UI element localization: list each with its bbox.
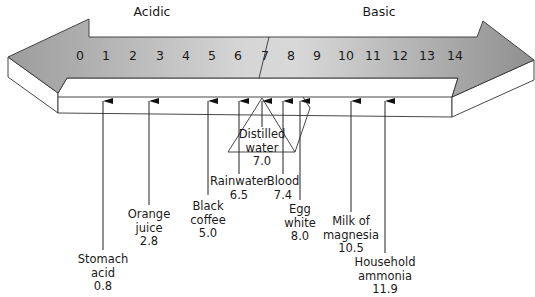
substance-name: ammonia xyxy=(355,270,416,284)
ph-tick-0: 0 xyxy=(76,48,84,63)
double-arrow-3d xyxy=(8,19,534,117)
ph-tick-9: 9 xyxy=(313,48,321,63)
substance-label: Rainwater6.5 xyxy=(210,175,268,202)
ph-value: 6.5 xyxy=(210,189,268,203)
substance-name: Milk of xyxy=(323,215,379,229)
substance-name: magnesia xyxy=(323,229,379,243)
substance-name: Egg xyxy=(284,203,315,217)
ph-tick-5: 5 xyxy=(208,48,216,63)
substance-label: Eggwhite8.0 xyxy=(284,203,315,244)
substance-label: Orangejuice2.8 xyxy=(128,208,171,249)
ph-value: 10.5 xyxy=(323,242,379,256)
substance-label: Blood7.4 xyxy=(267,175,299,202)
ph-value: 0.8 xyxy=(78,280,129,294)
ph-tick-6: 6 xyxy=(234,48,242,63)
ph-tick-2: 2 xyxy=(129,48,137,63)
region-label-basic: Basic xyxy=(362,4,395,19)
ph-tick-12: 12 xyxy=(392,48,408,63)
substance-name: Black xyxy=(190,200,225,214)
substance-name: Blood xyxy=(267,175,299,189)
ph-tick-11: 11 xyxy=(365,48,381,63)
ph-value: 5.0 xyxy=(190,227,225,241)
ph-tick-4: 4 xyxy=(182,48,190,63)
substance-label: Blackcoffee5.0 xyxy=(190,200,225,241)
ph-value: 7.0 xyxy=(239,155,286,169)
region-label-acidic: Acidic xyxy=(134,4,171,19)
substance-label: Householdammonia11.9 xyxy=(355,256,416,297)
ph-value: 11.9 xyxy=(355,283,416,297)
ph-value: 2.8 xyxy=(128,235,171,249)
substance-name: white xyxy=(284,217,315,231)
substance-label: Milk ofmagnesia10.5 xyxy=(323,215,379,256)
ph-tick-7: 7 xyxy=(261,48,269,63)
substance-name: Distilled xyxy=(239,128,286,142)
substance-name: Rainwater xyxy=(210,175,268,189)
substance-name: Household xyxy=(355,256,416,270)
shaft-front-face xyxy=(58,78,458,117)
ph-tick-8: 8 xyxy=(287,48,295,63)
ph-tick-3: 3 xyxy=(156,48,164,63)
ph-tick-10: 10 xyxy=(338,48,354,63)
substance-label: Distilledwater7.0 xyxy=(239,128,286,169)
ph-tick-14: 14 xyxy=(447,48,463,63)
substance-name: water xyxy=(239,142,286,156)
substance-name: Orange xyxy=(128,208,171,222)
substance-name: Stomach xyxy=(78,253,129,267)
substance-name: coffee xyxy=(190,214,225,228)
ph-value: 8.0 xyxy=(284,230,315,244)
ph-value: 7.4 xyxy=(267,189,299,203)
ph-tick-1: 1 xyxy=(102,48,110,63)
ph-tick-13: 13 xyxy=(419,48,435,63)
substance-name: acid xyxy=(78,267,129,281)
substance-name: juice xyxy=(128,222,171,236)
substance-label: Stomachacid0.8 xyxy=(78,253,129,294)
